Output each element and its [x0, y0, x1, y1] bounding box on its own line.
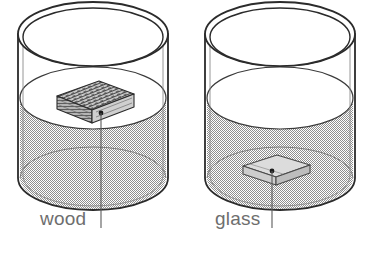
- right-cylinder: glass: [205, 2, 355, 229]
- physics-diagram-buoyancy: wood glass: [0, 0, 378, 255]
- right-water-body: [207, 98, 353, 209]
- diagram-canvas: wood glass: [0, 0, 378, 255]
- left-cylinder: wood: [18, 2, 168, 229]
- left-jar-rim-inner: [23, 8, 163, 66]
- right-water-surface-ellipse: [207, 67, 353, 129]
- wood-block: [57, 81, 134, 123]
- glass-label: glass: [215, 208, 260, 229]
- right-water-fill: [207, 98, 353, 209]
- wood-label: wood: [39, 208, 86, 229]
- right-jar-rim-inner: [210, 8, 350, 66]
